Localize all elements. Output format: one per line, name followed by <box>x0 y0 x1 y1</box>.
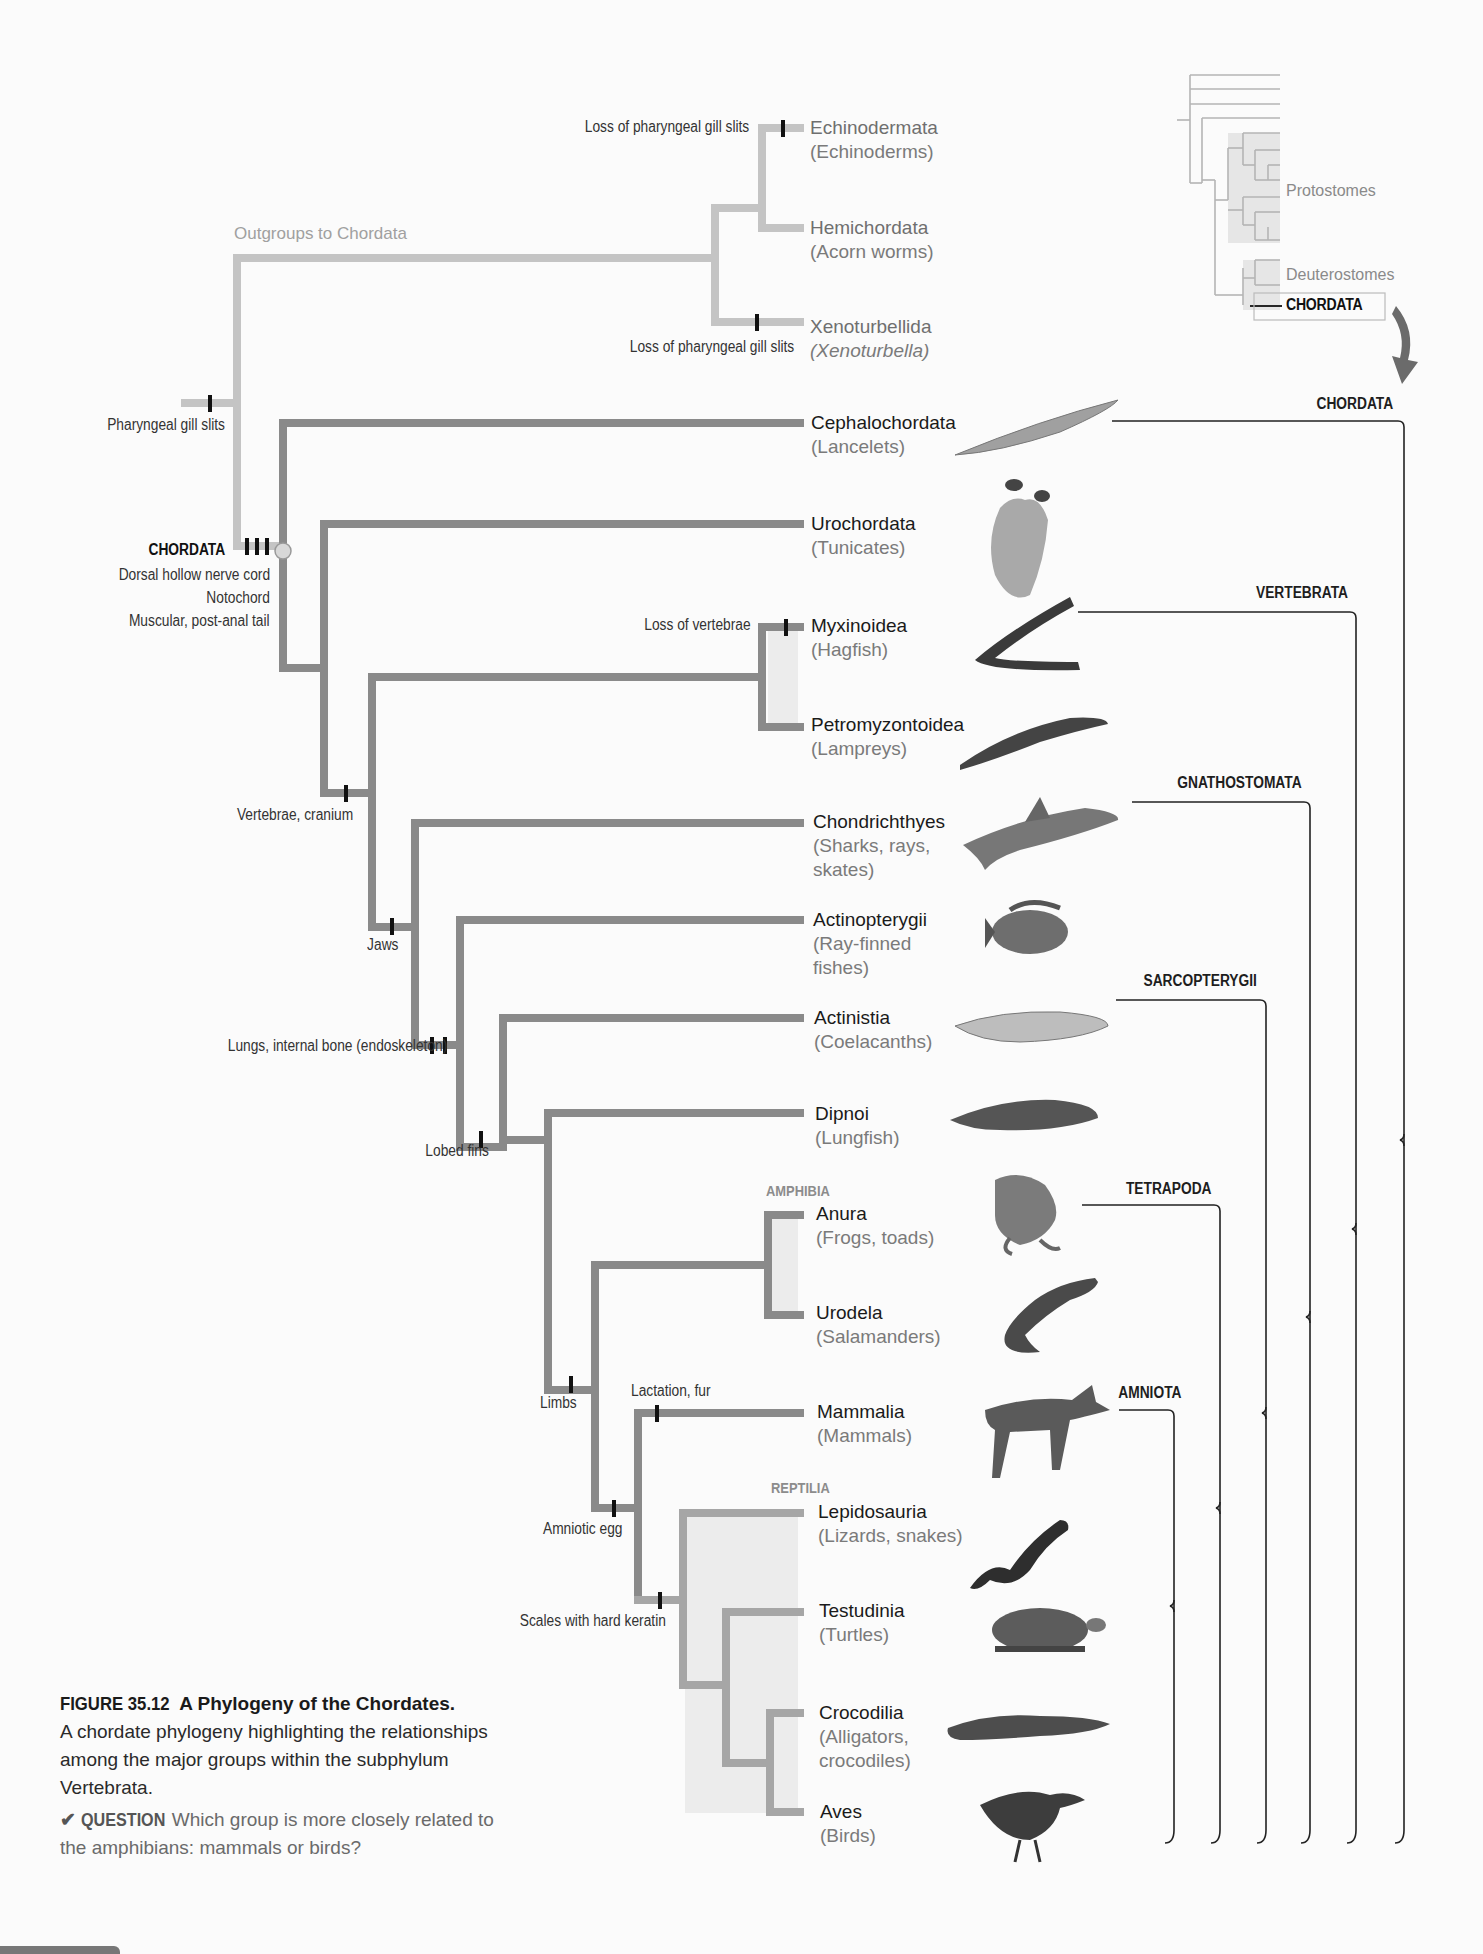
chordata-node-label: CHORDATA <box>148 541 225 559</box>
outgroup-branches <box>185 128 800 546</box>
hagfish-icon <box>975 597 1080 670</box>
taxon-dipnoi: Dipnoi (Lungfish) <box>815 1102 900 1150</box>
tunicate-icon <box>991 479 1050 598</box>
taxon-name: Xenoturbellida <box>810 316 931 337</box>
taxon-chondrichthyes: Chondrichthyes (Sharks, rays, skates) <box>813 810 945 882</box>
checkmark-icon: ✔ <box>60 1809 76 1830</box>
figure-number: FIGURE 35.12 <box>60 1690 170 1718</box>
deer-icon <box>985 1385 1110 1478</box>
character-vertebrae-cranium: Vertebrae, cranium <box>237 806 353 824</box>
taxon-name: Aves <box>820 1801 862 1822</box>
taxon-name: Lepidosauria <box>818 1501 927 1522</box>
taxon-crocodilia: Crocodilia (Alligators, crocodiles) <box>819 1701 911 1773</box>
taxon-common-name: (Xenoturbella) <box>810 339 931 363</box>
question-label: QUESTION <box>81 1806 165 1834</box>
taxon-anura: Anura (Frogs, toads) <box>816 1202 934 1250</box>
figure-question: ✔ QUESTION Which group is more closely r… <box>60 1806 510 1862</box>
inset-chordata-label: CHORDATA <box>1286 296 1362 314</box>
character-pharyngeal-gill-slits: Pharyngeal gill slits <box>107 416 225 434</box>
taxon-common-name-line1: (Ray-finned <box>813 932 927 956</box>
taxon-cephalochordata: Cephalochordata (Lancelets) <box>811 411 956 459</box>
clade-label-sarcopterygii: SARCOPTERYGII <box>1144 972 1257 990</box>
character-scales-keratin: Scales with hard keratin <box>520 1612 666 1630</box>
character-loss-vertebrae: Loss of vertebrae <box>645 616 751 634</box>
taxon-common-name: (Lampreys) <box>811 737 964 761</box>
taxon-common-name: (Birds) <box>820 1824 876 1848</box>
taxon-petromyzontoidea: Petromyzontoidea (Lampreys) <box>811 713 964 761</box>
character-loss-gill-slits-top: Loss of pharyngeal gill slits <box>585 118 749 136</box>
taxon-common-name-line1: (Alligators, <box>819 1725 911 1749</box>
chordata-trait-notochord: Notochord <box>207 589 270 607</box>
taxon-xenoturbellida: Xenoturbellida (Xenoturbella) <box>810 315 931 363</box>
taxon-common-name-line1: (Sharks, rays, <box>813 834 945 858</box>
inset-deuterostomes-label: Deuterostomes <box>1286 266 1395 284</box>
taxon-common-name: (Lungfish) <box>815 1126 900 1150</box>
taxon-echinodermata: Echinodermata (Echinoderms) <box>810 116 938 164</box>
chordata-node-icon <box>275 543 291 559</box>
bird-icon <box>980 1792 1085 1862</box>
clade-label-amniota: AMNIOTA <box>1118 1384 1181 1402</box>
alligator-icon <box>948 1715 1111 1740</box>
taxon-lepidosauria: Lepidosauria (Lizards, snakes) <box>818 1500 963 1548</box>
character-jaws: Jaws <box>367 936 398 954</box>
taxon-name: Petromyzontoidea <box>811 714 964 735</box>
lamprey-icon <box>960 718 1108 770</box>
lungfish-icon <box>950 1100 1098 1130</box>
taxon-name: Echinodermata <box>810 117 938 138</box>
taxon-common-name: (Tunicates) <box>811 536 916 560</box>
salamander-icon <box>1004 1278 1098 1353</box>
taxon-mammalia: Mammalia (Mammals) <box>817 1400 912 1448</box>
taxon-common-name: (Turtles) <box>819 1623 905 1647</box>
taxon-common-name: (Lancelets) <box>811 435 956 459</box>
chordate-branches <box>283 423 800 1600</box>
inset-protostomes-label: Protostomes <box>1286 182 1376 200</box>
taxon-hemichordata: Hemichordata (Acorn worms) <box>810 216 934 264</box>
figure-title: FIGURE 35.12 A Phylogeny of the Chordate… <box>60 1690 510 1718</box>
taxon-common-name-line2: fishes) <box>813 956 927 980</box>
figure-description: A chordate phylogeny highlighting the re… <box>60 1718 510 1802</box>
taxon-name: Myxinoidea <box>811 615 907 636</box>
taxon-name: Urochordata <box>811 513 916 534</box>
snake-icon <box>970 1520 1068 1589</box>
taxon-common-name: (Echinoderms) <box>810 140 938 164</box>
taxon-urochordata: Urochordata (Tunicates) <box>811 512 916 560</box>
group-label-reptilia: REPTILIA <box>771 1479 830 1496</box>
taxon-actinopterygii: Actinopterygii (Ray-finned fishes) <box>813 908 927 980</box>
taxon-common-name: (Frogs, toads) <box>816 1226 934 1250</box>
taxon-common-name: (Salamanders) <box>816 1325 941 1349</box>
character-lungs-bone: Lungs, internal bone (endoskeleton) <box>227 1037 447 1055</box>
clade-label-vertebrata: VERTEBRATA <box>1256 584 1348 602</box>
taxon-testudinia: Testudinia (Turtles) <box>819 1599 905 1647</box>
inset-animal-tree <box>1177 75 1418 384</box>
taxon-common-name-line2: crocodiles) <box>819 1749 911 1773</box>
taxon-name: Chondrichthyes <box>813 811 945 832</box>
taxon-name: Anura <box>816 1203 867 1224</box>
character-lobed-fins: Lobed fins <box>425 1142 489 1160</box>
figure-title-text: A Phylogeny of the Chordates. <box>179 1693 455 1714</box>
curved-arrow-icon <box>1392 306 1418 384</box>
taxon-name: Mammalia <box>817 1401 905 1422</box>
taxon-name: Crocodilia <box>819 1702 903 1723</box>
clade-shading <box>685 627 798 1813</box>
taxon-name: Urodela <box>816 1302 883 1323</box>
frog-icon <box>995 1175 1060 1254</box>
character-lactation-fur: Lactation, fur <box>631 1382 711 1400</box>
taxon-name: Testudinia <box>819 1600 905 1621</box>
group-label-amphibia: AMPHIBIA <box>766 1182 830 1199</box>
character-amniotic-egg: Amniotic egg <box>542 1520 622 1538</box>
clade-label-gnathostomata: GNATHOSTOMATA <box>1178 774 1302 792</box>
lancelet-icon <box>955 400 1118 455</box>
clade-label-chordata: CHORDATA <box>1316 395 1393 413</box>
taxon-common-name: (Coelacanths) <box>814 1030 932 1054</box>
taxon-common-name: (Lizards, snakes) <box>818 1524 963 1548</box>
taxon-name: Cephalochordata <box>811 412 956 433</box>
taxon-actinistia: Actinistia (Coelacanths) <box>814 1006 932 1054</box>
taxon-common-name: (Hagfish) <box>811 638 907 662</box>
taxon-common-name: (Mammals) <box>817 1424 912 1448</box>
taxon-name: Actinistia <box>814 1007 890 1028</box>
turtle-icon <box>992 1608 1106 1652</box>
outgroups-label: Outgroups to Chordata <box>234 224 407 244</box>
figure-caption: FIGURE 35.12 A Phylogeny of the Chordate… <box>60 1690 510 1862</box>
